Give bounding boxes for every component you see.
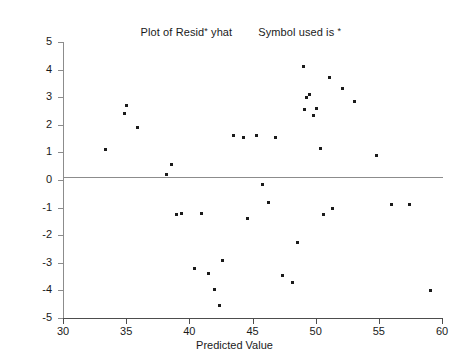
scatter-point [331,207,334,210]
y-tick-label: 2 [22,119,52,130]
x-tick-label: 55 [359,326,399,337]
scatter-point [193,267,196,270]
scatter-point [408,203,411,206]
x-tick-label: 60 [422,326,462,337]
scatter-point [165,173,168,176]
scatter-point [261,183,264,186]
scatter-point [274,136,277,139]
x-tick-mark [316,319,317,324]
scatter-point [296,241,299,244]
scatter-point [242,136,245,139]
y-tick-label: 5 [22,36,52,47]
scatter-point [232,134,235,137]
y-tick-label: 4 [22,64,52,75]
scatter-point [291,281,294,284]
x-tick-mark [253,319,254,324]
scatter-point [375,154,378,157]
chart-title-left: Plot of Resid [141,26,205,38]
scatter-point [303,108,306,111]
scatter-point [213,288,216,291]
y-tick-label: 1 [22,146,52,157]
scatter-point [281,274,284,277]
y-tick-label: -2 [22,229,52,240]
scatter-point [312,114,315,117]
scatter-point [246,217,249,220]
scatter-point [328,76,331,79]
scatter-point [180,212,183,215]
x-tick-label: 30 [43,326,83,337]
y-tick-label: 0 [22,174,52,185]
scatter-point [200,212,203,215]
scatter-point [341,87,344,90]
x-tick-label: 35 [106,326,146,337]
residual-plot-figure: Plot of Resid* yhatSymbol used is * 5432… [0,0,469,354]
scatter-point [315,107,318,110]
scatter-point [104,148,107,151]
scatter-point [308,93,311,96]
scatter-point [322,213,325,216]
y-tick-label: 3 [22,91,52,102]
x-tick-mark [126,319,127,324]
x-tick-mark [63,319,64,324]
scatter-point [305,96,308,99]
scatter-point [390,203,393,206]
y-tick-label: -5 [22,312,52,323]
x-tick-mark [379,319,380,324]
x-tick-label: 40 [169,326,209,337]
scatter-point [136,126,139,129]
y-tick-label: -1 [22,202,52,213]
scatter-point [255,134,258,137]
scatter-point [429,289,432,292]
y-tick-label: -3 [22,257,52,268]
chart-title-right-symbol: * [337,26,341,36]
scatter-point [267,201,270,204]
scatter-point [221,259,224,262]
scatter-point [125,104,128,107]
y-tick-label: -4 [22,284,52,295]
scatter-point [319,147,322,150]
scatter-point [123,112,126,115]
scatter-point [170,163,173,166]
x-tick-mark [189,319,190,324]
scatter-plot-area [63,42,442,318]
scatter-point [218,304,221,307]
scatter-point [175,213,178,216]
scatter-point [207,272,210,275]
x-tick-label: 45 [233,326,273,337]
x-tick-label: 50 [296,326,336,337]
x-tick-mark [442,319,443,324]
chart-title-right: Symbol used is [258,26,334,38]
chart-title-left-tail: yhat [211,26,232,38]
scatter-point [353,100,356,103]
chart-title-left-symbol: * [204,26,208,36]
scatter-point [302,65,305,68]
x-axis-label: Predicted Value [0,339,469,351]
